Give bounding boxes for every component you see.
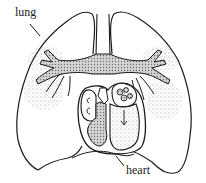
diagram-canvas <box>0 0 206 183</box>
right-atrium <box>81 90 96 121</box>
vessel-circle-1 <box>117 89 123 95</box>
left-ventricle <box>110 104 139 150</box>
lung-label: lung <box>15 6 36 18</box>
vessel-circle-4 <box>128 94 133 99</box>
trachea <box>96 14 110 56</box>
right-lung-medial-edge <box>111 14 114 54</box>
left-lung-medial-edge <box>92 14 95 54</box>
right-stipple-lower <box>146 80 182 120</box>
heart-label: heart <box>126 164 150 176</box>
vessel-circle-3 <box>121 95 127 101</box>
lung-pointer-line <box>30 24 40 36</box>
heart-pointer-line <box>116 156 124 166</box>
lung-heart-diagram: lung heart <box>0 0 206 183</box>
vessel-circle-2 <box>124 88 129 93</box>
